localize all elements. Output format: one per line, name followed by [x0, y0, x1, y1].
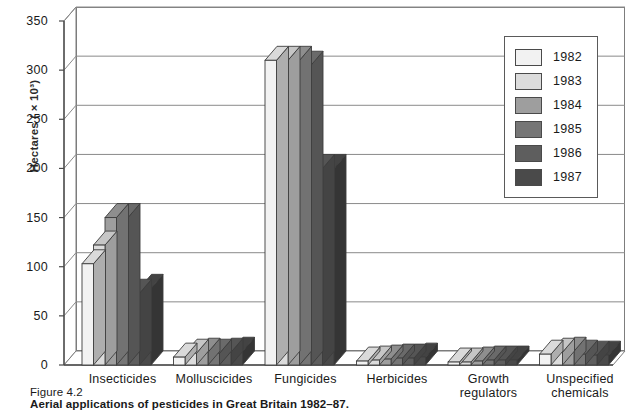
figure-number: Figure 4.2 — [30, 386, 349, 398]
legend-swatch-1985 — [515, 121, 542, 138]
legend-swatch-1986 — [515, 145, 542, 162]
legend-swatch-1984 — [515, 97, 542, 114]
legend-label-1987: 1987 — [553, 170, 582, 184]
legend-item-1985: 1985 — [515, 117, 587, 141]
legend-item-1983: 1983 — [515, 69, 587, 93]
legend-label-1984: 1984 — [553, 98, 582, 112]
bar-fungicides-1982 — [265, 46, 289, 365]
legend-swatch-1983 — [515, 73, 542, 90]
legend: 198219831984198519861987 — [504, 36, 598, 198]
legend-item-1982: 1982 — [515, 45, 587, 69]
legend-item-1986: 1986 — [515, 141, 587, 165]
legend-swatch-1982 — [515, 49, 542, 66]
bar-insecticides-1982 — [82, 250, 106, 365]
legend-item-1987: 1987 — [515, 165, 587, 189]
legend-label-1983: 1983 — [553, 74, 582, 88]
legend-label-1985: 1985 — [553, 122, 582, 136]
x-label-unspecified-chemicals: Unspecifiedchemicals — [520, 372, 637, 400]
legend-label-1986: 1986 — [553, 146, 582, 160]
figure-title: Aerial applications of pesticides in Gre… — [30, 398, 349, 410]
legend-label-1982: 1982 — [553, 50, 582, 64]
figure-caption: Figure 4.2 Aerial applications of pestic… — [30, 386, 349, 410]
legend-swatch-1987 — [515, 169, 542, 186]
bar-chart: Hectares ( × 10³) 050100150200250300350 … — [0, 0, 637, 418]
legend-item-1984: 1984 — [515, 93, 587, 117]
